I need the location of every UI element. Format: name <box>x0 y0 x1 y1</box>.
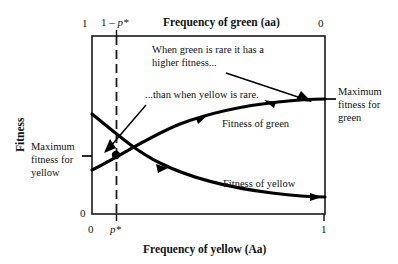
x-axis-title: Frequency of yellow (Aa) <box>143 243 266 256</box>
top-axis-tick-pstar: 1 – p* <box>101 16 129 28</box>
chart-canvas <box>0 0 398 264</box>
top-axis-tick-pstar-symbol: p* <box>118 16 129 28</box>
x-axis-tick-left: 0 <box>88 223 94 235</box>
curve-label-fitness-of-green: Fitness of green <box>222 118 289 130</box>
annotation-yellow-rare: ...than when yellow is rare. <box>145 89 259 101</box>
figure-frequency-dependent-selection: 1 1 – p* Frequency of green (aa) 0 Fitne… <box>0 0 398 264</box>
curve-fitness-of-green <box>92 99 325 170</box>
y-axis-title: Fitness <box>14 118 26 153</box>
curve-label-fitness-of-yellow: Fitness of yellow <box>223 178 295 190</box>
max-fitness-green-line2: fitness for <box>338 99 380 111</box>
equilibrium-point-marker <box>112 151 120 159</box>
annotation-green-rare-line2: higher fitness... <box>152 57 217 69</box>
max-fitness-yellow-line1: Maximum <box>31 141 75 153</box>
max-fitness-yellow-line3: yellow <box>31 167 60 179</box>
max-fitness-yellow-line2: fitness for <box>31 154 73 166</box>
top-axis-title: Frequency of green (aa) <box>163 16 280 29</box>
max-fitness-green-line3: green <box>338 112 361 124</box>
top-axis-tick-right: 0 <box>318 17 324 29</box>
top-axis-tick-left: 1 <box>82 17 88 29</box>
x-axis-tick-pstar: p* <box>110 223 121 235</box>
y-axis-tick-zero: 0 <box>80 207 86 219</box>
max-fitness-green-line1: Maximum <box>338 86 382 98</box>
x-axis-tick-right: 1 <box>321 223 327 235</box>
top-axis-tick-pstar-prefix: 1 – <box>101 16 118 28</box>
yellow-curve-arrow-right <box>310 193 322 201</box>
annotation-green-rare-line1: When green is rare it has a <box>152 44 264 56</box>
annotation-arrow-yellow <box>110 105 146 147</box>
